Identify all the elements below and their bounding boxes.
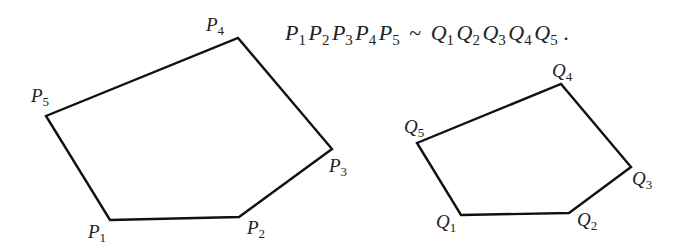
label-q2: Q2: [577, 209, 597, 233]
label-p5: P5: [30, 85, 49, 109]
label-q5: Q5: [404, 116, 424, 140]
similarity-statement: P1 P2 P3 P4 P5 ~ Q1 Q2 Q3 Q4 Q5 .: [284, 20, 569, 50]
label-q4: Q4: [552, 60, 573, 84]
label-p4: P4: [205, 14, 225, 38]
label-p1: P1: [87, 221, 106, 245]
pentagon-p: [46, 38, 332, 220]
label-q1: Q1: [436, 211, 456, 235]
label-q3: Q3: [632, 168, 652, 192]
label-p2: P2: [246, 217, 265, 241]
similar-pentagons-diagram: P1 P2 P3 P4 P5 ~ Q1 Q2 Q3 Q4 Q5 . P1 P2 …: [0, 0, 673, 248]
pentagon-q: [417, 84, 631, 215]
label-p3: P3: [328, 155, 347, 179]
